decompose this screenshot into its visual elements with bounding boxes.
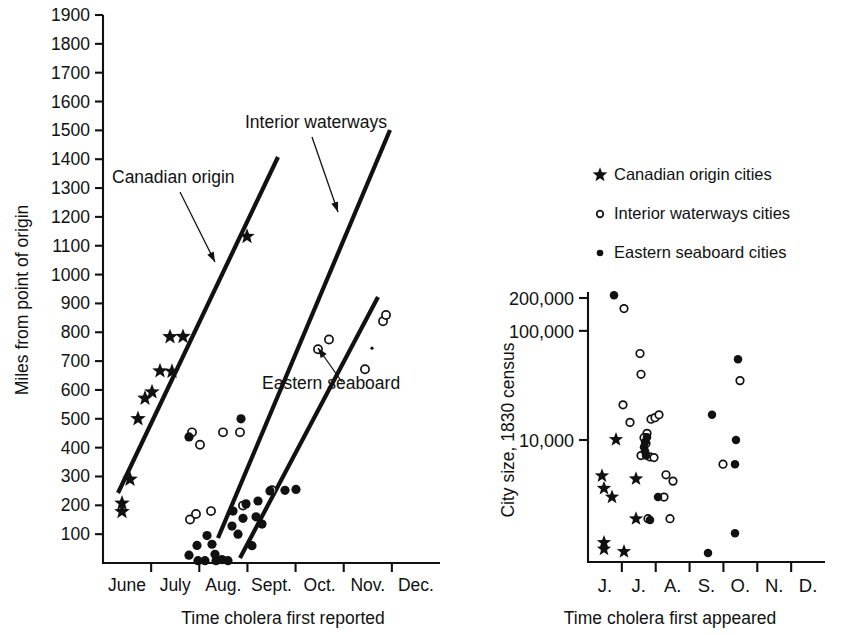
right-chart-legend: Canadian origin citiesInterior waterways…: [593, 165, 790, 261]
left-y-tick-label: 200: [61, 495, 90, 515]
data-point-open-circle: [207, 507, 215, 515]
data-point-filled-circle: [642, 451, 650, 459]
data-point-filled-circle: [251, 512, 260, 521]
right-x-tick-labels: J.J.A.S.O.N.D.: [598, 575, 818, 596]
left-y-tick-label: 1200: [51, 207, 90, 227]
legend-label: Eastern seaboard cities: [614, 243, 786, 261]
data-point-open-circle: [669, 477, 677, 485]
left-y-tick-label: 600: [61, 380, 90, 400]
data-point-open-circle: [626, 419, 634, 427]
right-x-tick-label: D.: [799, 575, 818, 596]
left-y-tick-label: 1700: [51, 63, 90, 83]
legend-label: Canadian origin cities: [614, 165, 772, 183]
series-star: [114, 228, 255, 518]
legend-label: Interior waterways cities: [614, 204, 790, 222]
left-y-tick-label: 700: [61, 351, 90, 371]
data-point-star: [629, 511, 643, 525]
left-y-tick-label: 100: [61, 524, 90, 544]
data-point-filled-circle: [207, 540, 216, 549]
data-point-open-circle: [219, 428, 227, 436]
data-point-filled-circle: [597, 250, 604, 257]
right-y-tick-label: 200,000: [509, 289, 574, 309]
right-chart-svg: Canadian origin citiesInterior waterways…: [470, 0, 855, 635]
left-y-tick-label: 1900: [51, 5, 90, 25]
data-point-open-circle: [325, 335, 333, 343]
right-axes: [579, 292, 825, 572]
left-y-tick-labels: 1002003004005006007008009001000110012001…: [51, 5, 90, 544]
data-point-star: [597, 481, 611, 495]
data-point-filled-circle: [731, 460, 739, 468]
left-y-tick-label: 1500: [51, 120, 90, 140]
right-data-points: [595, 291, 744, 558]
annotation-label: Canadian origin: [112, 167, 235, 187]
data-point-open-circle: [736, 377, 744, 385]
series-filled-circle: [184, 414, 300, 565]
legend-item: Interior waterways cities: [597, 204, 790, 222]
annotation-label: Eastern seaboard: [262, 373, 400, 393]
data-point-filled-circle: [731, 529, 739, 537]
data-point-star: [597, 542, 611, 556]
left-y-tick-label: 400: [61, 438, 90, 458]
data-point-star: [617, 544, 631, 558]
data-point-open-circle: [192, 510, 200, 518]
right-y-tick-labels: 10,000100,000200,000: [509, 289, 574, 451]
left-chart-svg: 1002003004005006007008009001000110012001…: [0, 0, 470, 635]
left-y-tick-label: 500: [61, 409, 90, 429]
data-point-filled-circle: [704, 549, 712, 557]
data-point-star: [593, 167, 608, 181]
left-axis-lines: [103, 15, 440, 563]
data-point-star: [162, 329, 178, 344]
annotation-label: Interior waterways: [245, 112, 387, 132]
legend-item: Eastern seaboard cities: [597, 243, 787, 261]
data-point-open-circle: [620, 305, 628, 313]
left-trend-lines: [118, 130, 390, 558]
data-point-open-circle: [666, 515, 674, 523]
annotation-arrowhead: [207, 251, 215, 262]
data-point-open-circle: [236, 428, 244, 436]
data-point-open-circle: [597, 211, 604, 218]
series-star: [595, 432, 643, 558]
data-point-open-circle: [719, 460, 727, 468]
left-x-tick-label: July: [160, 575, 191, 595]
left-y-tick-label: 1000: [51, 265, 90, 285]
data-point-open-circle: [637, 371, 645, 379]
data-point-filled-circle: [241, 499, 250, 508]
right-axis-lines: [588, 292, 825, 562]
left-x-tick-labels: JuneJulyAug.Sept.Oct.Nov.Dec.: [108, 575, 434, 595]
data-point-filled-circle: [654, 493, 662, 501]
right-y-tick-label: 100,000: [509, 322, 574, 342]
left-x-tick-label: Sept.: [251, 575, 292, 595]
left-annotations: Canadian originInterior waterwaysEastern…: [112, 112, 400, 393]
right-x-tick-label: S.: [698, 575, 715, 596]
data-point-open-circle: [662, 471, 670, 479]
left-x-tick-label: Dec.: [398, 575, 434, 595]
annotation-leader: [312, 137, 338, 212]
data-point-filled-circle: [192, 541, 201, 550]
data-point-filled-circle: [280, 486, 289, 495]
data-point-open-circle: [650, 454, 658, 462]
left-chart-panel: 1002003004005006007008009001000110012001…: [0, 0, 470, 635]
annotation-arrowhead: [331, 201, 338, 212]
left-y-tick-label: 1100: [52, 236, 90, 256]
data-point-tiny: [370, 347, 373, 350]
data-point-filled-circle: [228, 506, 237, 515]
data-point-filled-circle: [227, 521, 236, 530]
left-x-tick-label: Aug.: [205, 575, 241, 595]
trend-line-eastern-seaboard: [240, 297, 378, 558]
right-y-tick-label: 10,000: [519, 431, 574, 451]
left-x-tick-label: June: [108, 575, 146, 595]
trend-line-interior-waterways: [218, 130, 390, 538]
left-y-tick-label: 1400: [51, 149, 90, 169]
data-point-filled-circle: [202, 531, 211, 540]
data-point-open-circle: [636, 350, 644, 358]
data-point-filled-circle: [708, 411, 716, 419]
data-point-open-circle: [196, 441, 204, 449]
data-point-star: [152, 363, 168, 378]
data-point-filled-circle: [184, 551, 193, 560]
data-point-open-circle: [619, 401, 627, 409]
right-x-tick-label: J.: [632, 575, 646, 596]
right-x-tick-label: O.: [731, 575, 751, 596]
data-point-star: [130, 411, 146, 426]
data-point-filled-circle: [253, 496, 262, 505]
data-point-open-circle: [655, 411, 663, 419]
